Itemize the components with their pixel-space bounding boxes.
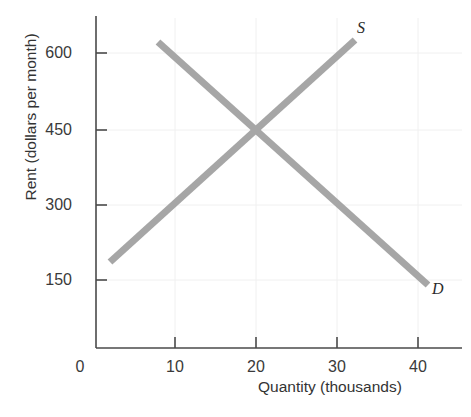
supply-curve-label: S <box>357 19 365 37</box>
gridlines <box>96 18 462 348</box>
demand-curve-label: D <box>432 280 444 298</box>
x-tick-marks <box>175 337 418 348</box>
supply-curve <box>110 40 355 262</box>
y-tick-marks <box>96 53 107 280</box>
supply-demand-figure: Rent (dollars per month) Quantity (thous… <box>0 0 471 417</box>
plot-area <box>0 0 471 417</box>
demand-curve <box>158 42 428 285</box>
